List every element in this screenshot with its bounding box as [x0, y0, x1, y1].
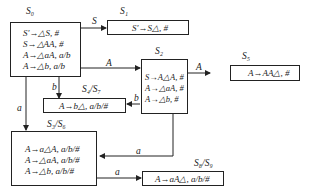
rule: S′→△S, #: [23, 28, 71, 39]
state-s47: A→b△, a/b/#: [43, 98, 126, 113]
rule: A→△aA, a/b/#: [25, 155, 80, 166]
state-label-s36: S₃/S₆: [47, 119, 66, 129]
state-s1: S′→S△, #: [107, 20, 189, 35]
rule: A→b△, a/b/#: [59, 101, 108, 112]
rule: A→△b, a/b: [23, 61, 71, 72]
state-s2: S→A△A, # A→△aA, # A→△b, #: [141, 59, 188, 114]
rule: A→△aA, a/b: [23, 50, 71, 61]
rule: A→△b, #: [145, 94, 184, 105]
rule: S→△AA, #: [23, 39, 71, 50]
rule: A→aA△, a/b/#: [155, 174, 210, 185]
state-label-s5: S₅: [242, 51, 250, 61]
state-s36: A→a△A, a/b/# A→△aA, a/b/# A→△b, a/b/#: [11, 131, 97, 186]
rule: S′→S△, #: [132, 23, 168, 34]
state-s5: A→AA△, #: [230, 65, 300, 81]
state-s0: S′→△S, # S→△AA, # A→△aA, a/b A→△b, a/b: [10, 22, 81, 77]
edge-label-a-s5: A: [196, 62, 202, 72]
state-s89: A→aA△, a/b/#: [142, 171, 224, 186]
state-label-s1: S₁: [120, 6, 128, 16]
rule: S→A△A, #: [145, 72, 184, 83]
edge-label-a-s2: a: [136, 146, 141, 156]
rule: A→△aA, #: [145, 83, 184, 94]
edge-label-b-s2: b: [134, 93, 139, 103]
edge-label-a-s89: a: [115, 167, 120, 177]
state-label-s0: S₀: [26, 6, 34, 16]
edge-label-a-left: a: [17, 103, 22, 113]
state-label-s89: S₈/S₉: [194, 158, 213, 168]
rule: A→△b, a/b/#: [25, 166, 80, 177]
edge-label-b: b: [52, 82, 57, 92]
rule: A→a△A, a/b/#: [25, 144, 80, 155]
state-label-s2: S₂: [155, 46, 163, 56]
edge-label-a: A: [106, 58, 112, 68]
rule: A→AA△, #: [248, 68, 290, 79]
edge-label-s: S: [92, 16, 97, 26]
state-label-s47: S₄/S₇: [82, 84, 101, 94]
